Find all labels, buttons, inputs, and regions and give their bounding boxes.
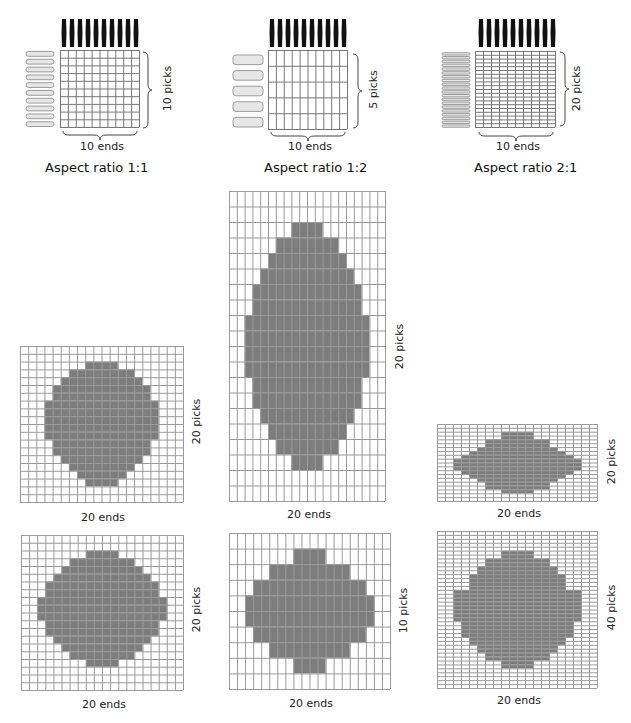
warp-threads-icon bbox=[477, 18, 557, 48]
ends-label: 20 ends bbox=[289, 697, 333, 710]
pattern-grid bbox=[229, 191, 386, 502]
picks-brace-icon bbox=[559, 52, 569, 126]
picks-label: 5 picks bbox=[367, 60, 380, 120]
picks-label: 20 picks bbox=[190, 580, 203, 640]
picks-label: 10 picks bbox=[161, 59, 174, 119]
ends-label: 20 ends bbox=[287, 508, 331, 521]
picks-brace-icon bbox=[142, 52, 152, 128]
ends-label: 20 ends bbox=[82, 698, 126, 711]
picks-brace-icon bbox=[352, 54, 362, 128]
pattern-grid bbox=[437, 531, 598, 689]
picks-label: 10 picks bbox=[397, 581, 410, 641]
ends-label: 20 ends bbox=[497, 694, 541, 707]
aspect-ratio-caption: Aspect ratio 2:1 bbox=[474, 160, 577, 175]
picks-label: 20 picks bbox=[393, 317, 406, 377]
picks-label: 20 picks bbox=[605, 432, 618, 492]
picks-label: 40 picks bbox=[605, 578, 618, 638]
ends-brace-icon bbox=[63, 130, 137, 140]
warp-threads-icon bbox=[60, 18, 140, 48]
picks-label: 20 picks bbox=[570, 59, 583, 119]
ends-label: 20 ends bbox=[497, 507, 541, 520]
ends-label: 10 ends bbox=[288, 140, 332, 153]
ends-label: 20 ends bbox=[81, 511, 125, 524]
ends-label: 10 ends bbox=[496, 140, 540, 153]
warp-threads-icon bbox=[268, 18, 348, 48]
ends-label: 10 ends bbox=[80, 140, 124, 153]
thread-grid bbox=[60, 50, 140, 128]
weft-threads-icon bbox=[25, 50, 55, 128]
pattern-grid bbox=[21, 535, 184, 691]
thread-grid bbox=[268, 50, 348, 130]
thread-grid bbox=[475, 51, 556, 128]
weft-threads-icon bbox=[232, 52, 264, 130]
pattern-grid bbox=[229, 533, 391, 690]
aspect-ratio-caption: Aspect ratio 1:2 bbox=[264, 160, 367, 175]
picks-label: 20 picks bbox=[190, 392, 203, 452]
pattern-grid bbox=[20, 346, 184, 503]
aspect-ratio-caption: Aspect ratio 1:1 bbox=[45, 160, 148, 175]
weft-threads-icon bbox=[441, 52, 471, 128]
pattern-grid bbox=[437, 424, 598, 502]
